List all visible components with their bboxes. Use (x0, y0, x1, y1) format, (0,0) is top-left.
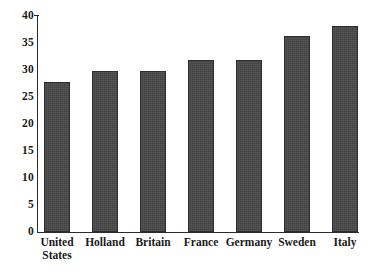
y-tick-label-30: 30 (4, 64, 34, 76)
bar-series (38, 0, 360, 233)
y-tick-label-35: 35 (4, 37, 34, 49)
bar-britain (140, 71, 166, 232)
bar-france (188, 60, 214, 232)
bar-italy (332, 26, 358, 232)
bar-united-states (44, 82, 70, 232)
y-tick-label-40: 40 (4, 10, 34, 22)
bar-sweden (284, 36, 310, 232)
bar-chart: 0510152025303540 United StatesHollandBri… (0, 0, 371, 272)
bar-germany (236, 60, 262, 232)
y-tick-label-20: 20 (4, 118, 34, 130)
x-axis-category-labels: United StatesHollandBritainFranceGermany… (38, 236, 360, 272)
bar-holland (92, 71, 118, 232)
y-tick-label-10: 10 (4, 172, 34, 184)
y-tick-label-15: 15 (4, 145, 34, 157)
y-tick-label-5: 5 (4, 199, 34, 211)
y-axis-tick-labels: 0510152025303540 (0, 0, 34, 272)
x-label-italy: Italy (314, 236, 371, 249)
y-tick-label-25: 25 (4, 91, 34, 103)
